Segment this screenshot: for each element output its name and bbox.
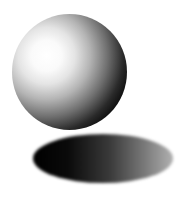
cast-shadow: [33, 134, 173, 183]
sphere-illustration: [0, 0, 185, 198]
shaded-sphere: [12, 14, 127, 130]
